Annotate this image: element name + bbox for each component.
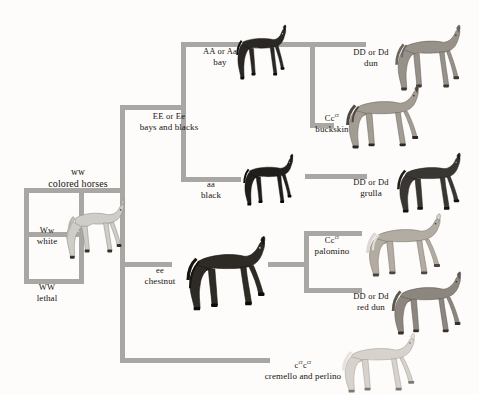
phenotype-bays-blacks: bays and blacks <box>124 122 214 132</box>
genotype-black: aa <box>183 180 239 190</box>
label-black: aa black <box>183 180 239 200</box>
phenotype-colored-horses: colored horses <box>22 178 134 190</box>
label-bays-blacks: EE or Ee bays and blacks <box>124 112 214 132</box>
connector-chestnut-out <box>268 262 308 267</box>
genotype-palomino: Cccr <box>300 236 364 246</box>
chestnut-horse <box>178 236 270 312</box>
cremello-horse <box>336 332 420 394</box>
bay-horse <box>228 24 290 82</box>
dun-horse <box>388 24 466 92</box>
label-lethal: WW lethal <box>14 283 80 303</box>
red-dun-horse <box>386 270 466 336</box>
white-horse <box>52 195 130 265</box>
grulla-horse <box>390 152 466 214</box>
phenotype-black: black <box>183 190 239 200</box>
genotype-bays-blacks: EE or Ee <box>124 112 214 122</box>
genotype-colored-horses: ww <box>22 167 134 178</box>
phenotype-palomino: palomino <box>300 246 364 256</box>
genotype-lethal: WW <box>14 283 80 293</box>
label-palomino: Cccr palomino <box>300 236 364 256</box>
palomino-horse <box>360 212 446 278</box>
buckskin-horse <box>340 84 424 150</box>
connector-main-top <box>120 105 182 110</box>
label-colored-horses: ww colored horses <box>22 167 134 189</box>
genetics-diagram: ww colored horses Ww white WW lethal EE … <box>0 0 479 395</box>
black-horse <box>235 152 297 208</box>
phenotype-lethal: lethal <box>14 293 80 303</box>
